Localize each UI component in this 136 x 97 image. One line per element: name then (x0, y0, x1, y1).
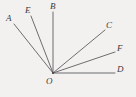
ray-OF (53, 52, 115, 73)
ray-OA (14, 24, 53, 73)
geometry-figure: AEBCFDO (0, 0, 136, 97)
point-label-b: B (50, 2, 56, 11)
point-label-d: D (117, 65, 124, 74)
ray-group (14, 12, 115, 73)
ray-OC (53, 30, 105, 73)
point-label-c: C (106, 21, 112, 30)
ray-OE (31, 16, 53, 73)
rays-canvas (0, 0, 136, 97)
point-label-a: A (6, 14, 12, 23)
vertex-point-o (52, 72, 54, 74)
point-label-e: E (25, 6, 31, 15)
point-label-f: F (117, 44, 123, 53)
point-label-o: O (46, 77, 53, 86)
